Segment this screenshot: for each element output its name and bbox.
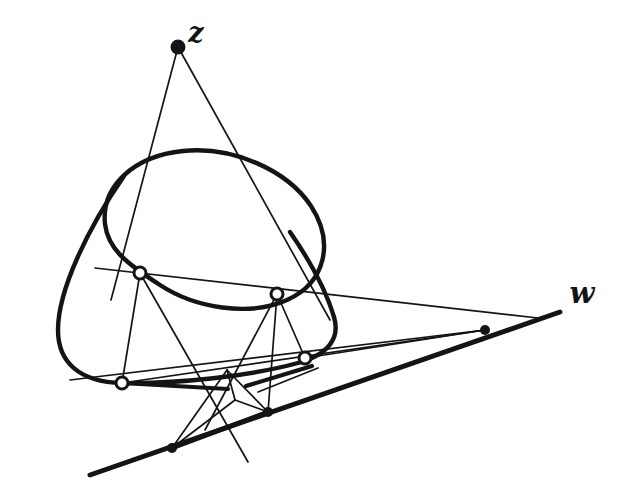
point-w-left [167,443,177,453]
point-tangency-upper-right [271,288,283,300]
point-tangency-upper-left [134,267,146,279]
point-w-mid [263,407,273,417]
point-z-apex [171,40,186,55]
point-tangency-lower-right [299,352,311,364]
figure-background [0,0,641,501]
label-w: w [570,276,596,310]
figure-root: zw [0,0,641,501]
geometry-figure: zw [0,0,641,501]
label-z: z [187,17,204,48]
point-w-right [480,325,490,335]
point-tangency-lower-left [116,377,128,389]
